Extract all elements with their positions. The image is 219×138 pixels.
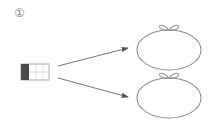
arrow-top: [58, 48, 128, 66]
arrow-bottom: [58, 78, 128, 97]
diagram-canvas: [0, 0, 219, 138]
grid-block: [21, 64, 49, 80]
bag-bottom-icon: [137, 73, 201, 118]
bag-top-icon: [137, 25, 201, 70]
